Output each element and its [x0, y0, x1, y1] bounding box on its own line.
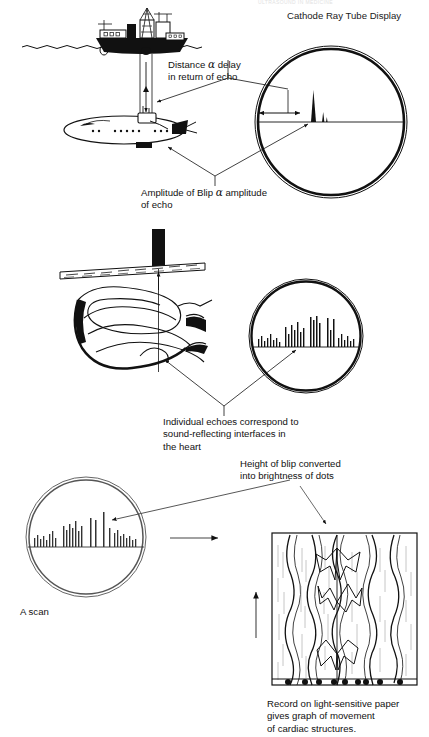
ship-icon — [96, 8, 188, 55]
crt-display-label: Cathode Ray Tube Display — [287, 10, 401, 22]
ultrasound-principle-figure: ULTRASOUND IN MEDICINE Cathode Ray Tube … — [0, 0, 429, 737]
leader-amplitude-sub — [168, 147, 215, 176]
ascan-panel — [26, 477, 417, 685]
leader-brightness-ascan — [112, 480, 290, 520]
chest-wall-layer — [60, 263, 205, 279]
alpha-symbol-amplitude: α — [216, 186, 223, 198]
heart-panel — [60, 229, 363, 416]
crt-display-heart — [249, 279, 363, 393]
leader-brightness-record — [300, 486, 326, 524]
heart-cross-section — [75, 287, 212, 369]
label-a-scan: A scan — [20, 606, 49, 618]
submarine-icon — [64, 106, 197, 148]
sonar-beam — [140, 54, 152, 118]
paper-record-chart — [272, 533, 417, 685]
caption-individual-echoes: Individual echoes correspond to sound-re… — [163, 416, 343, 453]
caption-distance-delay-text-1: Distance — [168, 59, 208, 70]
caption-amplitude-blip: Amplitude of Blip α amplitude of echo — [141, 186, 331, 212]
transducer-icon — [152, 229, 165, 269]
caption-record-paper: Record on light-sensitive paper gives gr… — [267, 698, 429, 735]
running-header: ULTRASOUND IN MEDICINE — [258, 0, 333, 5]
sonar-panel — [22, 8, 407, 198]
figure-canvas — [0, 0, 429, 737]
caption-height-brightness: Height of blip converted into brightness… — [240, 458, 420, 483]
caption-distance-delay: Distance α delay in return of echo — [168, 58, 298, 84]
crt-display-ascan — [26, 477, 146, 597]
caption-amplitude-text-1: Amplitude of Blip — [141, 187, 216, 198]
leader-heart-organ — [165, 360, 224, 406]
